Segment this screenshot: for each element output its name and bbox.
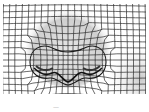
figure-caption: — bbox=[50, 103, 62, 111]
nose-wireframe-image: — bbox=[0, 0, 149, 112]
wireframe-mesh bbox=[0, 0, 149, 112]
